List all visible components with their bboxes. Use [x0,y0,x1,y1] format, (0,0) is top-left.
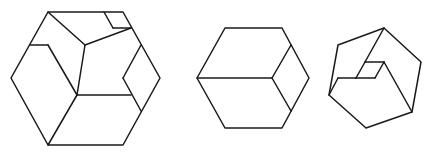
inner-edge [272,78,291,111]
inner-edge [384,62,412,112]
inner-edge [85,28,131,45]
cube-hexagon [197,28,309,128]
rotated-notched-cube [329,28,421,128]
inner-edge [365,28,384,62]
inner-edge [104,12,113,28]
hexagon-figures [0,0,430,155]
inner-edge [272,45,291,78]
hexagon-outline [11,12,160,145]
inner-edge [48,95,77,145]
inner-edge [356,62,365,78]
inner-edge [48,45,77,95]
inner-edge [48,12,85,45]
dissected-hexagon [11,12,160,145]
inner-edge [77,45,85,95]
figure-canvas [0,0,430,155]
inner-edge [123,45,141,78]
inner-edge [375,62,384,78]
